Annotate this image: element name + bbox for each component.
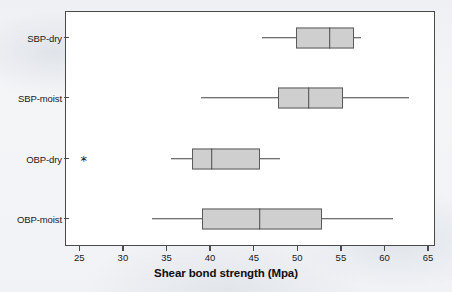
whisker-high-obp-dry	[260, 158, 280, 160]
x-axis-tick-label: 30	[118, 252, 129, 263]
x-axis-tick-label: 40	[205, 252, 216, 263]
x-axis-tick-mark	[253, 246, 254, 251]
median-sbp-moist	[308, 87, 310, 108]
x-axis-title: Shear bond strength (Mpa)	[0, 267, 452, 279]
x-axis-tick-mark	[209, 246, 210, 251]
median-sbp-dry	[329, 27, 331, 48]
boxplot-figure: SBP-drySBP-moistOBP-dryOBP-moist 2530354…	[0, 0, 452, 292]
x-axis-tick-mark	[166, 246, 167, 251]
box-obp-dry	[192, 148, 260, 169]
category-tick-mark	[64, 37, 69, 38]
median-obp-moist	[259, 208, 261, 229]
category-tick-mark	[64, 218, 69, 219]
whisker-high-sbp-dry	[354, 37, 361, 39]
x-axis-tick-label: 65	[423, 252, 434, 263]
x-axis-tick-mark	[297, 246, 298, 251]
category-label-sbp-moist: SBP-moist	[0, 92, 62, 103]
x-axis-tick-mark	[384, 246, 385, 251]
x-axis-tick-label: 60	[379, 252, 390, 263]
category-label-obp-dry: OBP-dry	[0, 153, 62, 164]
x-axis-tick-label: 55	[336, 252, 347, 263]
x-axis-tick-label: 35	[161, 252, 172, 263]
category-tick-mark	[64, 158, 69, 159]
category-tick-mark	[64, 97, 69, 98]
whisker-low-obp-moist	[152, 218, 203, 220]
x-axis-tick-mark	[122, 246, 123, 251]
category-label-sbp-dry: SBP-dry	[0, 32, 62, 43]
whisker-high-obp-moist	[322, 218, 394, 220]
x-axis-tick-mark	[340, 246, 341, 251]
box-sbp-moist	[278, 87, 343, 108]
outlier-marker-obp-dry: *	[80, 153, 87, 166]
whisker-low-obp-dry	[171, 158, 192, 160]
x-axis-tick-label: 50	[292, 252, 303, 263]
category-label-obp-moist: OBP-moist	[0, 213, 62, 224]
box-sbp-dry	[296, 27, 354, 48]
x-axis-tick-mark	[79, 246, 80, 251]
x-axis-tick-mark	[427, 246, 428, 251]
box-obp-moist	[202, 208, 321, 229]
whisker-low-sbp-dry	[262, 37, 297, 39]
whisker-high-sbp-moist	[343, 97, 409, 99]
x-axis-tick-label: 25	[74, 252, 85, 263]
whisker-low-sbp-moist	[201, 97, 279, 99]
x-axis-tick-label: 45	[248, 252, 259, 263]
median-obp-dry	[211, 148, 213, 169]
